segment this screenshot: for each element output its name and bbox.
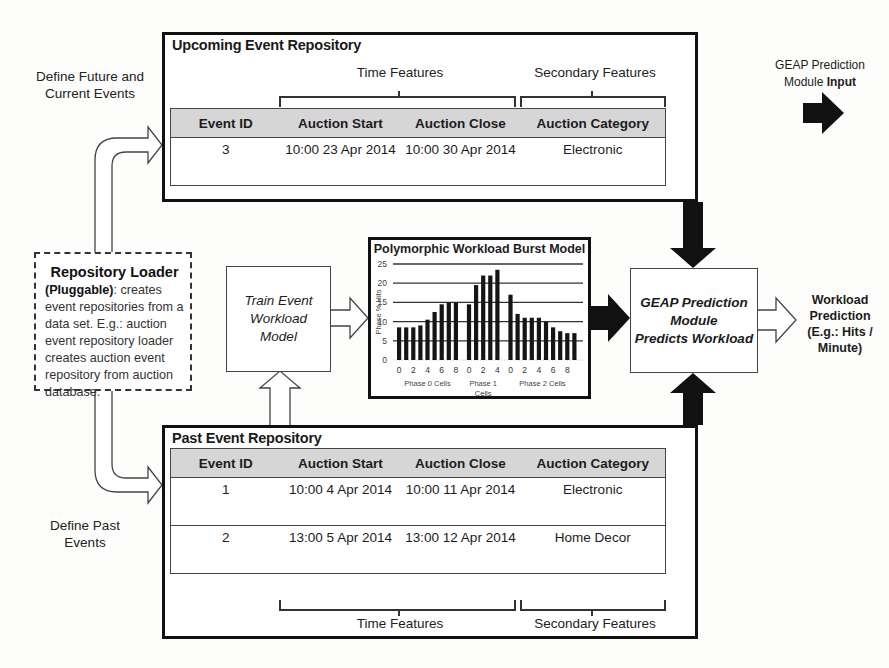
geap-input-bold: Input (827, 75, 856, 89)
repository-loader-title: Repository Loader (45, 264, 184, 281)
repository-loader-box: Repository Loader (Pluggable): creates e… (34, 252, 192, 391)
geap-module-line3: Predicts Workload (635, 330, 753, 348)
svg-text:2: 2 (522, 365, 527, 375)
svg-text:8: 8 (565, 365, 570, 375)
train-event-workload-model-box: Train Event Workload Model (226, 266, 331, 372)
define-past-label: Define Past Events (40, 517, 130, 551)
col-auction-category: Auction Category (521, 109, 666, 138)
svg-text:Cells: Cells (475, 389, 492, 396)
chart-to-geap-arrow-icon (590, 294, 630, 342)
svg-text:4: 4 (425, 365, 430, 375)
define-future-label: Define Future and Current Events (30, 68, 150, 102)
geap-input-plain: Module (784, 75, 827, 89)
svg-text:0: 0 (508, 365, 513, 375)
svg-text:Phase 0 Cells: Phase 0 Cells (404, 379, 451, 388)
past-event-repository: Past Event Repository Event ID Auction S… (162, 425, 698, 639)
geap-input-legend-line1: GEAP Prediction (770, 57, 870, 74)
geap-input-legend-arrow-icon (803, 92, 844, 134)
past-feature-braces (165, 428, 695, 638)
define-past-arrow-icon (95, 390, 162, 503)
table-header-row: Event ID Auction Start Auction Close Auc… (171, 109, 666, 138)
cell-auction-start: 10:00 23 Apr 2014 (281, 138, 401, 186)
geap-prediction-module-box: GEAP Prediction Module Predicts Workload (630, 268, 758, 373)
col-event-id: Event ID (171, 109, 281, 138)
svg-text:Phase 2 Cells: Phase 2 Cells (519, 379, 566, 388)
repository-loader-pluggable: (Pluggable) (45, 283, 114, 297)
svg-text:20: 20 (378, 278, 388, 288)
upcoming-event-repository: Upcoming Event Repository Time Features … (162, 32, 698, 202)
col-auction-close: Auction Close (401, 109, 521, 138)
geap-input-legend: GEAP Prediction Module Input (770, 57, 870, 91)
svg-text:5: 5 (382, 336, 387, 346)
workload-prediction-label: Workload Prediction (E.g.: Hits / Minute… (797, 292, 883, 356)
past-secondary-features-label: Secondary Features (520, 616, 670, 631)
upcoming-events-table: Event ID Auction Start Auction Close Auc… (170, 108, 666, 186)
define-future-text: Define Future and Current Events (36, 69, 144, 101)
cell-event-id: 3 (171, 138, 281, 186)
svg-text:Phase % Hits: Phase % Hits (374, 289, 383, 334)
svg-text:2: 2 (481, 365, 486, 375)
svg-text:0: 0 (467, 365, 472, 375)
svg-text:0: 0 (397, 365, 402, 375)
upcoming-feature-braces (165, 35, 695, 115)
cell-auction-category: Electronic (521, 138, 666, 186)
past-to-geap-arrow-icon (670, 373, 716, 425)
upcoming-to-geap-arrow-icon (670, 202, 716, 268)
svg-text:4: 4 (495, 365, 500, 375)
svg-text:4: 4 (537, 365, 542, 375)
cell-auction-close: 10:00 30 Apr 2014 (401, 138, 521, 186)
svg-text:6: 6 (551, 365, 556, 375)
svg-text:0: 0 (382, 355, 387, 365)
workload-burst-chart: Polymorphic Workload Burst Model 0510152… (368, 237, 591, 399)
svg-text:Phase 1: Phase 1 (469, 379, 497, 388)
workload-prediction-text: Workload Prediction (E.g.: Hits / Minute… (807, 293, 872, 355)
svg-text:6: 6 (439, 365, 444, 375)
bar-chart-plot: 0510152025Phase % Hits02468Phase 0 Cells… (371, 240, 588, 396)
geap-input-legend-line2: Module Input (770, 74, 870, 91)
train-input-arrow-icon (260, 371, 300, 425)
geap-module-line1: GEAP Prediction (635, 294, 753, 312)
col-auction-start: Auction Start (281, 109, 401, 138)
past-time-features-label: Time Features (330, 616, 470, 631)
geap-output-arrow-icon (757, 298, 796, 342)
repository-loader-description: : creates event repositories from a data… (45, 283, 184, 399)
svg-text:8: 8 (454, 365, 459, 375)
define-future-arrow-icon (95, 127, 162, 252)
geap-module-label: GEAP Prediction Module Predicts Workload (635, 294, 753, 348)
svg-text:25: 25 (378, 259, 388, 269)
svg-text:2: 2 (411, 365, 416, 375)
train-to-chart-arrow-icon (330, 298, 368, 338)
define-past-text: Define Past Events (50, 518, 120, 550)
train-model-label: Train Event Workload Model (239, 292, 319, 346)
table-row: 3 10:00 23 Apr 2014 10:00 30 Apr 2014 El… (171, 138, 666, 186)
geap-module-line2: Module (635, 312, 753, 330)
